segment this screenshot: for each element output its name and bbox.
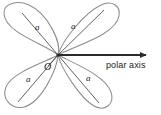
petal-upper-left: [4, 3, 59, 55]
radius-line-upper-left: [22, 13, 58, 55]
radius-label-upper-right: a: [71, 22, 76, 31]
radius-label-lower-right: a: [86, 74, 91, 83]
radius-label-lower-left: a: [26, 75, 31, 84]
radius-line-lower-right: [58, 55, 99, 103]
rose-curve-svg: [0, 0, 161, 115]
polar-axis-label: polar axis: [106, 61, 146, 70]
origin-label: O: [44, 62, 51, 72]
radius-line-upper-right: [58, 10, 104, 55]
petal-upper-right: [58, 3, 119, 55]
petal-lower-right: [58, 55, 112, 108]
polar-rose-figure: a a a a O polar axis: [0, 0, 161, 115]
pole-point: [56, 53, 59, 56]
radius-label-upper-left: a: [35, 23, 40, 32]
